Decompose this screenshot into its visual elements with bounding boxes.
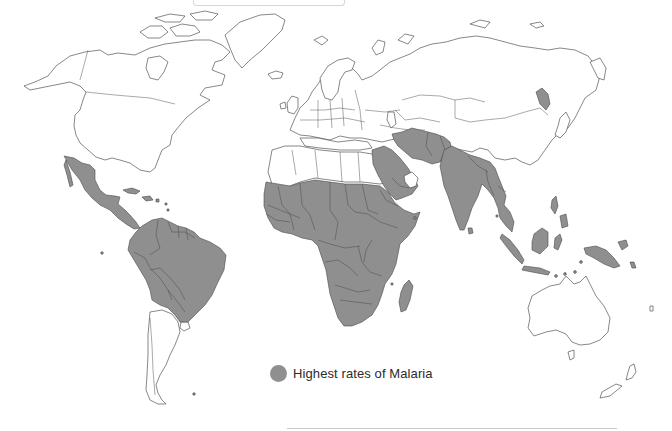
malaria-legend-swatch-icon [270,365,287,382]
bottom-divider [287,428,617,429]
legend: Highest rates of Malaria [270,365,433,382]
africa-malaria [264,180,420,326]
indonesia-malaria [496,196,636,277]
legend-label: Highest rates of Malaria [293,366,433,381]
south-america [101,218,226,404]
north-america [24,11,285,172]
oceania [528,276,653,398]
